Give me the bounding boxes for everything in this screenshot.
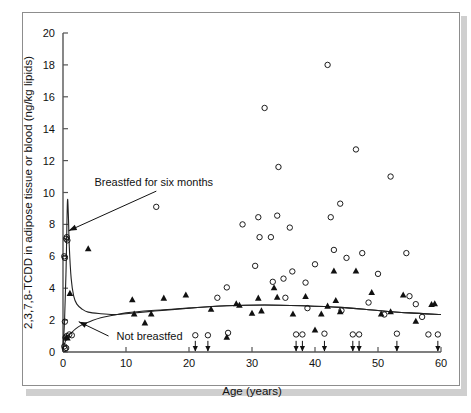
- y-axis-tick-label: 6: [49, 250, 55, 262]
- data-point-filled-triangle: [183, 291, 190, 297]
- censored-arrow-head: [394, 346, 399, 352]
- data-point-open-circle: [290, 269, 295, 274]
- data-point-open-circle: [426, 332, 431, 337]
- data-point-open-circle: [435, 332, 440, 337]
- data-point-filled-triangle: [337, 308, 344, 314]
- y-axis-tick-label: 20: [43, 27, 55, 39]
- data-point-open-circle: [344, 255, 349, 260]
- y-axis-tick-label: 12: [43, 155, 55, 167]
- data-point-open-circle: [252, 263, 257, 268]
- data-point-open-circle: [215, 295, 220, 300]
- data-point-filled-triangle: [129, 296, 136, 302]
- data-point-open-circle: [322, 331, 327, 336]
- data-point-filled-triangle: [255, 295, 262, 301]
- data-point-filled-triangle: [85, 245, 92, 251]
- data-point-filled-triangle: [302, 293, 309, 299]
- data-point-open-circle: [303, 280, 308, 285]
- data-point-filled-triangle: [400, 291, 407, 297]
- x-axis-tick-label: 10: [120, 357, 132, 369]
- censored-arrow-head: [357, 346, 362, 352]
- data-point-filled-triangle: [142, 319, 149, 325]
- data-point-filled-triangle: [332, 297, 339, 303]
- x-axis-tick-label: 30: [246, 357, 258, 369]
- data-point-open-circle: [360, 250, 365, 255]
- data-point-filled-triangle: [258, 307, 265, 313]
- data-point-open-circle: [353, 147, 358, 152]
- x-axis-tick-label: 40: [309, 357, 321, 369]
- data-point-open-circle: [404, 250, 409, 255]
- data-point-filled-triangle: [249, 310, 256, 316]
- data-point-open-circle: [256, 215, 261, 220]
- data-point-open-circle: [240, 222, 245, 227]
- data-point-open-circle: [413, 301, 418, 306]
- data-point-filled-triangle: [318, 311, 325, 317]
- data-point-filled-triangle: [290, 311, 297, 317]
- y-axis-tick-label: 8: [49, 218, 55, 230]
- scatter-plot: 010203040506002468101214161820Age (years…: [0, 0, 471, 413]
- data-point-open-circle: [366, 300, 371, 305]
- data-point-open-circle: [388, 174, 393, 179]
- data-point-filled-triangle: [331, 267, 338, 273]
- y-axis-tick-label: 16: [43, 91, 55, 103]
- data-point-filled-triangle: [161, 295, 168, 301]
- y-axis-tick-label: 2: [49, 314, 55, 326]
- x-axis-tick-label: 0: [60, 357, 66, 369]
- data-point-open-circle: [356, 332, 361, 337]
- censored-arrow-head: [435, 346, 440, 352]
- censored-arrow-head: [300, 346, 305, 352]
- data-point-open-circle: [154, 204, 159, 209]
- data-point-filled-triangle: [271, 284, 278, 290]
- data-point-open-circle: [338, 201, 343, 206]
- data-point-open-circle: [225, 330, 230, 335]
- annotations-layer: Breastfed for six monthsNot breastfed: [69, 176, 214, 342]
- data-point-open-circle: [224, 285, 229, 290]
- annotation-label: Not breastfed: [117, 330, 183, 342]
- figure-root: 010203040506002468101214161820Age (years…: [0, 0, 471, 413]
- data-point-filled-triangle: [353, 267, 360, 273]
- data-point-open-circle: [312, 262, 317, 267]
- fitted-curves-layer: [63, 199, 441, 348]
- data-point-open-circle: [205, 333, 210, 338]
- data-point-open-circle: [325, 62, 330, 67]
- censored-arrow-head: [322, 346, 327, 352]
- y-axis-tick-label: 0: [49, 346, 55, 358]
- data-point-open-circle: [300, 332, 305, 337]
- data-point-open-circle: [283, 295, 288, 300]
- data-point-open-circle: [275, 213, 280, 218]
- data-point-filled-triangle: [368, 289, 375, 295]
- data-point-filled-triangle: [312, 326, 319, 332]
- data-point-open-circle: [350, 332, 355, 337]
- data-point-open-circle: [193, 333, 198, 338]
- y-axis-tick-label: 14: [43, 123, 55, 135]
- censored-arrow-head: [294, 346, 299, 352]
- censored-arrow-head: [205, 346, 210, 352]
- data-point-filled-triangle: [324, 303, 331, 309]
- y-axis-tick-label: 4: [49, 282, 55, 294]
- data-point-open-circle: [262, 105, 267, 110]
- annotation-arrow-head: [79, 322, 87, 328]
- data-point-open-circle: [375, 271, 380, 276]
- data-point-open-circle: [257, 234, 262, 239]
- x-axis-title: Age (years): [222, 385, 282, 397]
- data-point-filled-triangle: [413, 318, 420, 324]
- y-axis-tick-label: 18: [43, 59, 55, 71]
- data-point-filled-triangle: [224, 334, 231, 340]
- data-point-open-circle: [407, 293, 412, 298]
- data-point-open-circle: [328, 215, 333, 220]
- data-point-open-circle: [276, 164, 281, 169]
- data-point-open-circle: [268, 234, 273, 239]
- x-axis-tick-label: 20: [183, 357, 195, 369]
- data-point-open-circle: [419, 314, 424, 319]
- censored-arrows-layer: [193, 341, 441, 352]
- data-point-open-circle: [394, 331, 399, 336]
- data-point-open-circle: [270, 279, 275, 284]
- axes-layer: 010203040506002468101214161820Age (years…: [22, 27, 447, 397]
- data-point-filled-triangle: [274, 294, 281, 300]
- censored-arrow-head: [193, 346, 198, 352]
- data-point-open-circle: [331, 247, 336, 252]
- data-point-open-circle: [293, 332, 298, 337]
- data-points-layer: [62, 62, 441, 351]
- x-axis-tick-label: 50: [372, 357, 384, 369]
- y-axis-title: 2,3,7,8-TCDD in adipose tissue or blood …: [22, 56, 34, 329]
- x-axis-tick-label: 60: [435, 357, 447, 369]
